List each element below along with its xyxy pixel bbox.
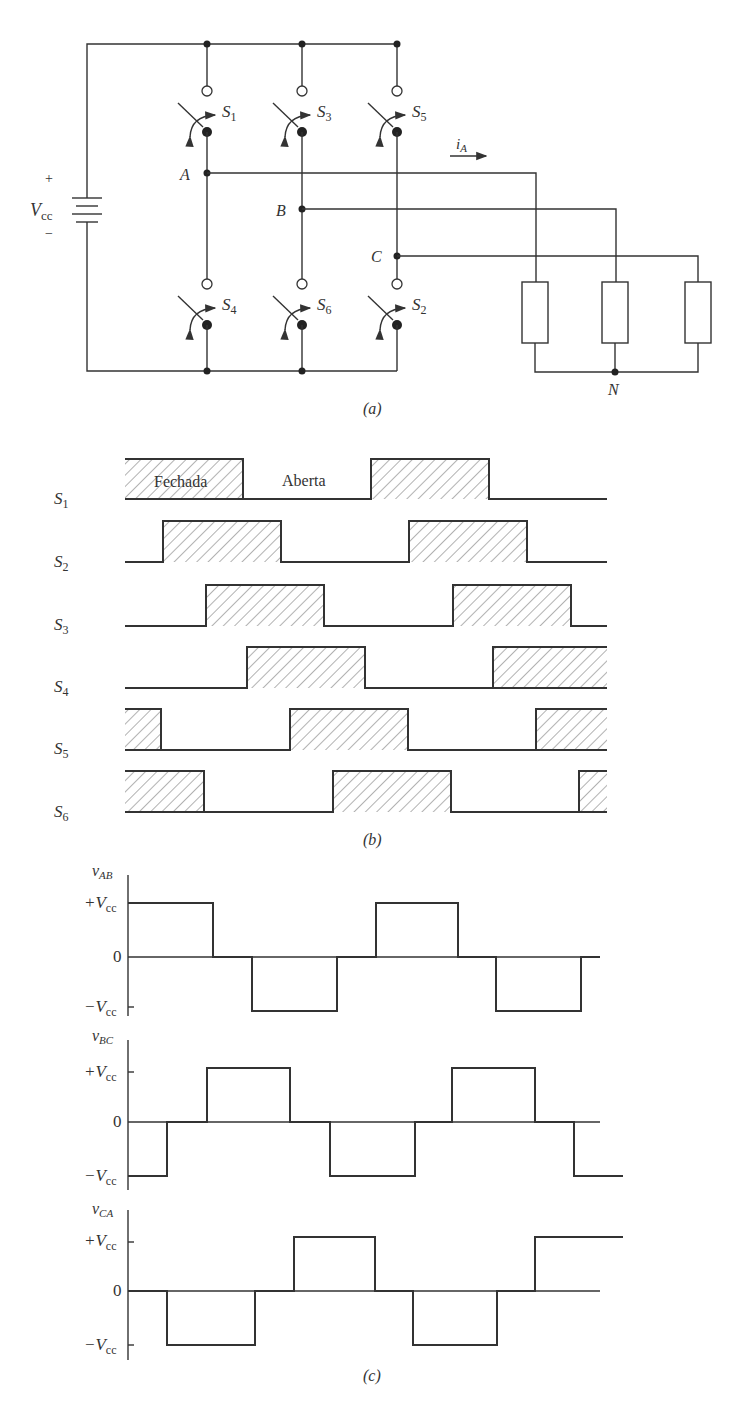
- timeline-row-s3: [125, 585, 607, 626]
- minus-sign: −: [45, 226, 53, 241]
- node-n-label: N: [607, 381, 620, 398]
- label-s1: S1: [222, 102, 237, 124]
- plot-vbc: vBC +Vcc 0 −Vcc: [84, 1027, 623, 1190]
- load-resistor-b: [602, 282, 628, 343]
- plot-vab: vAB +Vcc 0 −Vcc: [84, 862, 600, 1019]
- leg-b: [297, 41, 307, 375]
- switching-timeline: S1 S2 S3 S4 S5 S6 Fechada Aberta: [54, 459, 607, 849]
- caption-c: (c): [363, 1367, 381, 1385]
- plot-vca: vCA +Vcc 0 −Vcc: [84, 1200, 623, 1360]
- vbc-neg-tick: −Vcc: [84, 1166, 117, 1188]
- vab-axis-label: vAB: [92, 862, 113, 881]
- current-ia: iA: [450, 136, 486, 156]
- inverter-figure: + Vcc −: [0, 0, 747, 1412]
- label-s5: S5: [412, 102, 427, 124]
- row-label-s4: S4: [54, 677, 69, 699]
- voltage-waveforms: vAB +Vcc 0 −Vcc vBC +Vcc 0 −Vcc vCA +Vcc…: [84, 862, 623, 1385]
- vcc-label: Vcc: [30, 200, 53, 223]
- vca-axis-label: vCA: [92, 1200, 113, 1219]
- vbc-pos-tick: +Vcc: [84, 1062, 117, 1084]
- vab-zero-tick: 0: [113, 947, 122, 966]
- switch-symbols: [178, 103, 405, 330]
- open-label: Aberta: [282, 472, 326, 489]
- bottom-rail: [87, 222, 397, 371]
- closed-label: Fechada: [154, 473, 207, 490]
- row-label-s2: S2: [54, 552, 69, 574]
- load-resistor-c: [685, 282, 711, 343]
- caption-b: (b): [363, 831, 382, 849]
- leg-a: [202, 41, 212, 375]
- timeline-row-s2: [125, 521, 607, 562]
- leg-c: [392, 41, 402, 372]
- top-rail: [87, 44, 397, 198]
- timeline-row-s4: [125, 647, 607, 688]
- vca-neg-tick: −Vcc: [84, 1335, 117, 1357]
- wire-c: [397, 256, 698, 282]
- row-label-s3: S3: [54, 615, 69, 637]
- circuit-schematic: + Vcc −: [30, 41, 711, 419]
- row-label-s1: S1: [54, 489, 69, 511]
- neutral-wire: [535, 343, 698, 372]
- label-s4: S4: [222, 295, 237, 317]
- node-a-label: A: [179, 166, 190, 183]
- dc-source: + Vcc −: [30, 171, 102, 241]
- vca-pos-tick: +Vcc: [84, 1231, 117, 1253]
- row-label-s5: S5: [54, 739, 69, 761]
- vab-neg-tick: −Vcc: [84, 997, 117, 1019]
- row-label-s6: S6: [54, 802, 69, 824]
- timeline-row-s6: [125, 771, 607, 812]
- timeline-row-s1: Fechada Aberta: [125, 459, 607, 499]
- svg-text:iA: iA: [456, 136, 467, 154]
- label-s6: S6: [317, 295, 332, 317]
- node-b-label: B: [276, 202, 286, 219]
- vbc-zero-tick: 0: [113, 1112, 122, 1131]
- wire-b: [302, 209, 616, 282]
- timeline-row-s5: [125, 709, 607, 750]
- vbc-axis-label: vBC: [92, 1027, 114, 1046]
- node-c-label: C: [371, 248, 382, 265]
- label-s3: S3: [317, 102, 332, 124]
- neutral-node: [612, 369, 619, 376]
- label-s2: S2: [412, 295, 427, 317]
- wire-a: [207, 173, 536, 282]
- vab-pos-tick: +Vcc: [84, 893, 117, 915]
- vca-zero-tick: 0: [113, 1281, 122, 1300]
- load-resistor-a: [522, 282, 548, 343]
- plus-sign: +: [45, 171, 53, 186]
- caption-a: (a): [363, 400, 382, 418]
